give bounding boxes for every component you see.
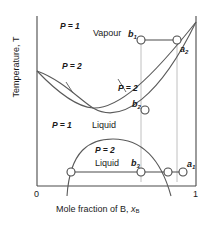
x-tick-label-0: 0 [34, 190, 39, 199]
y-axis-title-text: Temperature, [11, 42, 21, 97]
x-axis-title: Mole fraction of B, xB [56, 205, 140, 214]
point-label-a1-sub: 1 [192, 164, 195, 170]
y-axis-title-symbol: T [11, 37, 21, 43]
marker-a2[interactable] [173, 36, 181, 44]
x-tick-label-1: 1 [193, 190, 198, 199]
annotation-liquid-region-mid: Liquid [92, 121, 116, 130]
point-label-b3: b3 [131, 159, 140, 169]
marker-dome-left[interactable] [67, 168, 75, 176]
point-label-a2: a2 [180, 45, 188, 55]
marker-b3[interactable] [137, 168, 145, 176]
point-label-b1-sub: 1 [134, 34, 137, 40]
annotation-liquid-region-low: Liquid [95, 159, 119, 168]
point-label-b2-sub: 2 [138, 104, 141, 110]
marker-dome-right[interactable] [164, 168, 172, 176]
annotation-vapour-region: Vapour [93, 29, 121, 38]
phase-diagram-figure: P = 1 P = 2 P = 2 P = 1 P = 2 Vapour Liq… [0, 0, 211, 228]
annotation-p1-liquid: P = 1 [52, 121, 72, 130]
annotation-p2-lower: P = 2 [95, 146, 115, 155]
point-label-a2-sub: 2 [185, 49, 188, 55]
point-label-b2: b2 [132, 100, 141, 110]
annotation-p1-vapour: P = 1 [60, 22, 80, 31]
x-axis-title-text: Mole fraction of B, [56, 204, 131, 214]
annotation-p2-upper: P = 2 [62, 62, 82, 71]
marker-a1[interactable] [179, 168, 187, 176]
marker-b2[interactable] [141, 106, 149, 114]
annotation-p2-middle: P = 2 [118, 84, 138, 93]
marker-b1[interactable] [137, 36, 145, 44]
point-label-a1: a1 [187, 160, 195, 170]
x-axis-title-subscript: B [136, 208, 140, 214]
point-label-b3-sub: 3 [137, 163, 140, 169]
y-axis-title: Temperature, T [5, 7, 23, 127]
point-label-b1: b1 [128, 30, 137, 40]
